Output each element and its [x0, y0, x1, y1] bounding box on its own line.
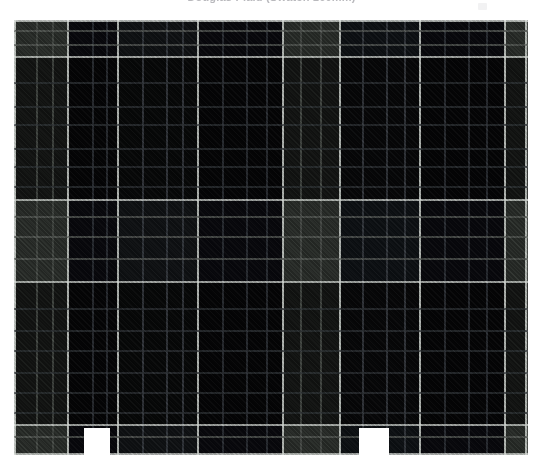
selvedge-notch-left	[84, 428, 110, 455]
page-title: Douglas Plaid (Swatch 160mm)	[0, 0, 543, 3]
tartan-plaid-swatch	[14, 20, 528, 455]
page-corner-mark	[478, 3, 487, 10]
selvedge-notch-right	[359, 428, 389, 455]
title-bar: Douglas Plaid (Swatch 160mm)	[0, 0, 543, 14]
twill-weave-highlight	[14, 20, 528, 455]
